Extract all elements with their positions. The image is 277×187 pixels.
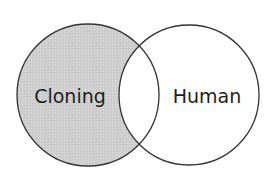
human-set-label: Human bbox=[173, 85, 242, 107]
venn-diagram: Cloning Human bbox=[0, 0, 277, 187]
cloning-set-label: Cloning bbox=[34, 85, 106, 107]
